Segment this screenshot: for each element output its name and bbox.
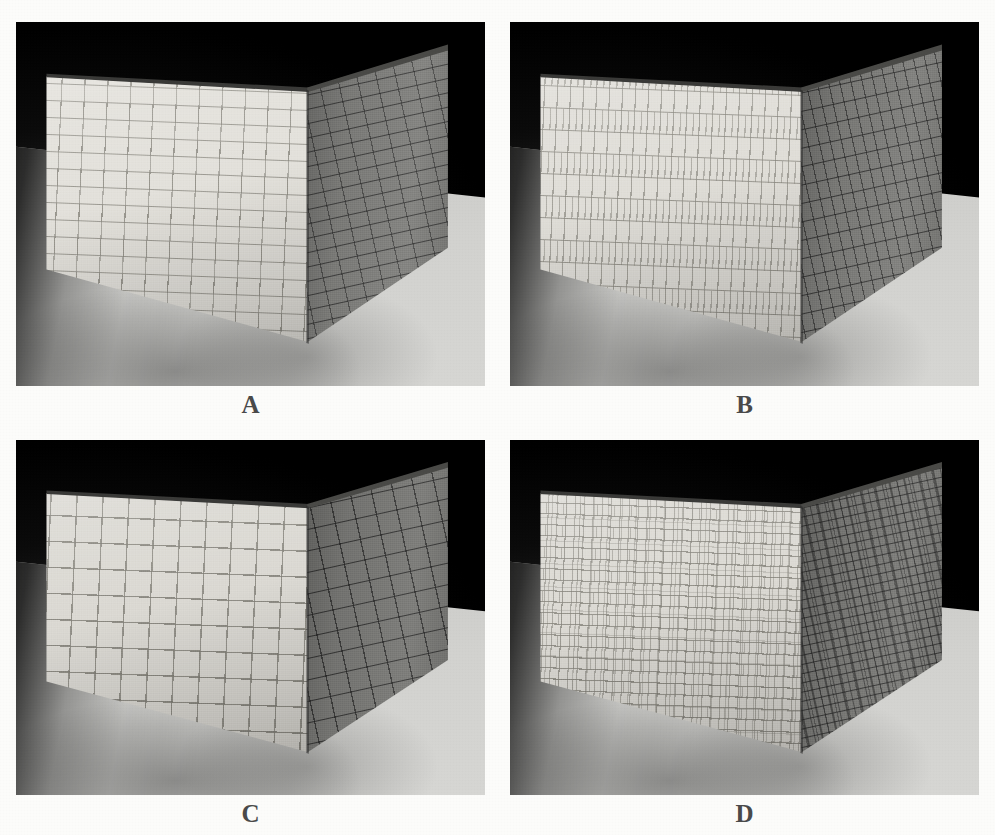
- panel-a-scene: [16, 22, 485, 386]
- panel-d-scene: [510, 440, 979, 795]
- panel-d[interactable]: [510, 440, 979, 795]
- panel-c-caption: C: [16, 800, 485, 828]
- panel-a-caption: A: [16, 391, 485, 419]
- figure-root: A B C D: [0, 0, 995, 835]
- panel-c-scene: [16, 440, 485, 795]
- panel-b-scene: [510, 22, 979, 386]
- panel-b-caption: B: [510, 391, 979, 419]
- panel-c[interactable]: [16, 440, 485, 795]
- panel-a[interactable]: [16, 22, 485, 386]
- panel-b[interactable]: [510, 22, 979, 386]
- panel-d-caption: D: [510, 800, 979, 828]
